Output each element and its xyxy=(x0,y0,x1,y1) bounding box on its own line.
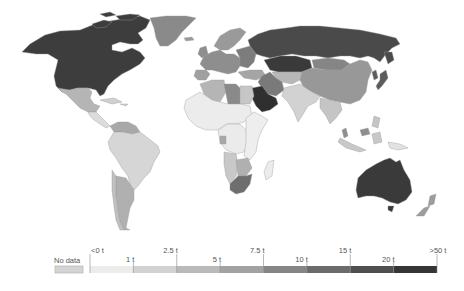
region-russia-east[interactable] xyxy=(384,52,394,64)
legend-tick-label: 10 t xyxy=(295,255,308,264)
world-map-countries xyxy=(22,12,436,230)
region-libya[interactable] xyxy=(224,84,242,104)
legend-bin-swatch xyxy=(220,266,263,273)
region-north-america[interactable] xyxy=(22,16,150,96)
region-east-africa[interactable] xyxy=(244,112,268,160)
legend-tick-label: >50 t xyxy=(430,246,448,255)
region-gabon[interactable] xyxy=(220,136,226,144)
legend-tick-label: 20 t xyxy=(382,255,395,264)
region-madagascar[interactable] xyxy=(264,160,274,180)
legend-bin-swatch xyxy=(133,266,176,273)
region-botswana[interactable] xyxy=(236,158,252,176)
region-malaysia[interactable] xyxy=(342,128,370,138)
region-russia[interactable] xyxy=(248,26,400,62)
region-japan-korea[interactable] xyxy=(372,70,388,90)
legend-bin-swatch xyxy=(90,266,133,273)
legend-tick-label: 2.5 t xyxy=(163,246,179,255)
region-tasmania[interactable] xyxy=(388,206,394,212)
region-greenland[interactable] xyxy=(150,16,196,46)
region-australia[interactable] xyxy=(356,158,412,204)
legend-tick-label: 1 t xyxy=(126,255,135,264)
no-data-swatch xyxy=(55,266,83,273)
legend-tick-label: 7.5 t xyxy=(250,246,266,255)
region-iberia[interactable] xyxy=(194,70,210,80)
region-iceland[interactable] xyxy=(184,37,194,41)
region-southeast-asia[interactable] xyxy=(320,98,342,124)
legend: No data <0 t1 t2.5 t5 t7.5 t10 t15 t20 t… xyxy=(54,246,447,273)
emissions-choropleth-map: No data <0 t1 t2.5 t5 t7.5 t10 t15 t20 t… xyxy=(0,0,464,291)
legend-tick-label: <0 t xyxy=(91,246,105,255)
legend-bin-swatch xyxy=(394,266,437,273)
region-new-zealand[interactable] xyxy=(416,194,436,216)
no-data-label: No data xyxy=(54,256,81,265)
legend-bin-swatch xyxy=(264,266,307,273)
legend-tick-label: 5 t xyxy=(213,255,222,264)
legend-tick-label: 15 t xyxy=(339,246,352,255)
region-mexico[interactable] xyxy=(58,88,100,112)
region-philippines[interactable] xyxy=(372,116,380,128)
legend-bin-swatch xyxy=(307,266,350,273)
region-central-america[interactable] xyxy=(88,112,110,128)
region-kazakhstan[interactable] xyxy=(264,56,312,72)
region-egypt[interactable] xyxy=(240,86,254,104)
region-caribbean[interactable] xyxy=(100,98,128,106)
legend-bin-swatch xyxy=(177,266,220,273)
region-papua-new-guinea[interactable] xyxy=(388,142,408,150)
region-scandinavia[interactable] xyxy=(214,28,246,50)
legend-bin-swatch xyxy=(350,266,393,273)
